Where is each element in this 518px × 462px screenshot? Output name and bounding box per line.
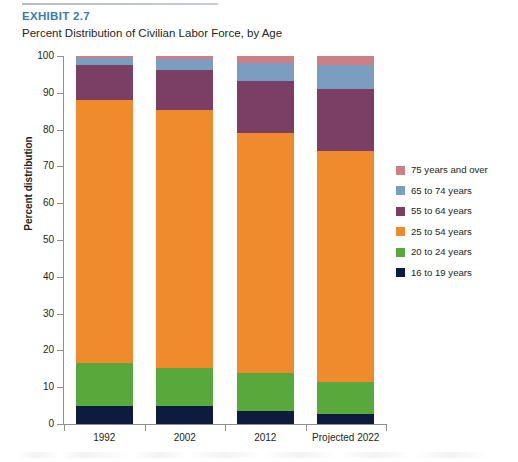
y-axis-tick [57,130,63,131]
bar-segment[interactable] [317,89,374,152]
legend-item[interactable]: 25 to 54 years [396,222,514,243]
bar-segment[interactable] [76,406,133,424]
y-axis-tick [57,350,63,351]
y-axis-tick [57,314,63,315]
y-axis-tick-label: 0 [26,418,54,429]
bar-segment[interactable] [76,65,133,100]
x-axis-tick [306,425,307,431]
bar-column[interactable] [237,56,294,424]
bar-segment[interactable] [237,411,294,424]
legend-label: 16 to 19 years [411,268,472,278]
x-axis-tick [225,425,226,431]
x-axis-tick [145,425,146,431]
legend-item[interactable]: 75 years and over [396,160,514,181]
y-axis-tick-label: 30 [26,308,54,319]
bar-segment[interactable] [317,56,374,65]
bar-column[interactable] [76,56,133,424]
bar-segment[interactable] [156,59,213,70]
bar-segment[interactable] [317,65,374,89]
y-axis-tick [57,166,63,167]
bar-segment[interactable] [317,382,374,414]
y-axis-tick [57,424,63,425]
bar-column[interactable] [317,56,374,424]
bar-segment[interactable] [237,63,294,81]
legend-label: 65 to 74 years [411,186,472,196]
x-axis-tick [64,425,65,431]
bar-segment[interactable] [76,363,133,405]
bar-segment[interactable] [156,406,213,424]
bar-segment[interactable] [156,70,213,110]
y-axis-tick-label: 40 [26,271,54,282]
legend-item[interactable]: 20 to 24 years [396,242,514,263]
y-axis-tick [57,277,63,278]
legend-item[interactable]: 16 to 19 years [396,263,514,284]
y-axis-tick-label: 90 [26,87,54,98]
y-axis-tick-label: 10 [26,381,54,392]
bar-segment[interactable] [156,368,213,406]
legend-swatch-icon [396,186,405,195]
bar-segment[interactable] [317,414,374,424]
legend-swatch-icon [396,227,405,236]
bar-segment[interactable] [237,133,294,373]
legend-label: 55 to 64 years [411,206,472,216]
bar-segment[interactable] [76,58,133,65]
y-axis-tick [57,387,63,388]
legend-swatch-icon [396,248,405,257]
x-axis-tick-label: Projected 2022 [296,432,396,443]
legend-swatch-icon [396,166,405,175]
legend-swatch-icon [396,268,405,277]
bar-segment[interactable] [76,56,133,58]
y-axis-tick [57,240,63,241]
bar-segment[interactable] [76,100,133,363]
y-axis-tick-label: 100 [26,50,54,61]
footer-source-note [18,452,488,458]
x-axis-tick [386,425,387,431]
bar-segment[interactable] [237,56,294,63]
legend-item[interactable]: 65 to 74 years [396,181,514,202]
y-axis-tick-label: 20 [26,344,54,355]
bar-segment[interactable] [317,151,374,382]
legend-label: 25 to 54 years [411,227,472,237]
y-axis-tick [57,56,63,57]
y-axis-tick [57,93,63,94]
y-axis-tick [57,203,63,204]
bar-segment[interactable] [237,81,294,133]
legend-label: 75 years and over [411,165,488,175]
legend-label: 20 to 24 years [411,247,472,257]
bar-segment[interactable] [237,373,294,411]
plot-area [64,56,386,424]
bar-segment[interactable] [156,56,213,59]
legend-item[interactable]: 55 to 64 years [396,201,514,222]
chart-legend: 75 years and over65 to 74 years55 to 64 … [396,160,514,283]
legend-swatch-icon [396,207,405,216]
bar-column[interactable] [156,56,213,424]
y-axis-title: Percent distribution [23,114,34,254]
bar-segment[interactable] [156,110,213,368]
